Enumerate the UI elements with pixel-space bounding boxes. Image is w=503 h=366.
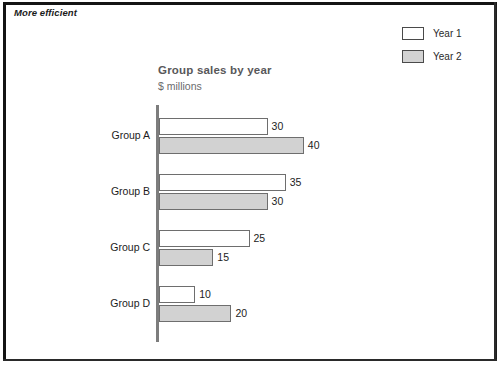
bar-year-2[interactable] [159,305,231,322]
category-label: Group A [30,129,150,141]
bar-value-label: 25 [254,233,266,244]
bar-group: Group D1020 [0,286,503,322]
bar-value-label: 35 [290,177,302,188]
bar-year-2[interactable] [159,193,268,210]
bar-row[interactable]: 25 [159,230,265,247]
bar-year-1[interactable] [159,286,195,303]
bar-group: Group B3530 [0,174,503,210]
bar-row[interactable]: 30 [159,193,283,210]
bar-year-1[interactable] [159,118,268,135]
bar-chart-plot: Group A3040Group B3530Group C2515Group D… [0,0,503,366]
bar-row[interactable]: 20 [159,305,247,322]
bar-value-label: 40 [308,140,320,151]
bar-year-1[interactable] [159,174,286,191]
bar-year-2[interactable] [159,249,213,266]
bar-row[interactable]: 30 [159,118,283,135]
slide-canvas: More efficient Group sales by year $ mil… [0,0,503,366]
bar-group: Group C2515 [0,230,503,266]
category-label: Group B [30,185,150,197]
bar-value-label: 20 [235,308,247,319]
bar-group: Group A3040 [0,118,503,154]
bar-row[interactable]: 40 [159,137,319,154]
bar-value-label: 30 [272,121,284,132]
bar-value-label: 30 [272,196,284,207]
bar-row[interactable]: 15 [159,249,229,266]
bar-row[interactable]: 35 [159,174,301,191]
category-label: Group D [30,297,150,309]
bar-year-2[interactable] [159,137,304,154]
category-label: Group C [30,241,150,253]
bar-value-label: 10 [199,289,211,300]
bar-value-label: 15 [217,252,229,263]
bar-year-1[interactable] [159,230,250,247]
bar-row[interactable]: 10 [159,286,211,303]
